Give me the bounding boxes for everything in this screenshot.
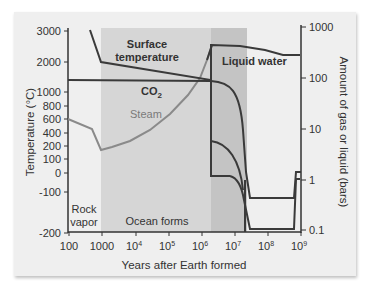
svg-text:1000: 1000 bbox=[309, 21, 333, 33]
right-axis-title: Amount of gas or liquid (bars) bbox=[338, 57, 350, 208]
svg-text:600: 600 bbox=[43, 113, 61, 125]
svg-text:1000: 1000 bbox=[37, 86, 61, 98]
svg-text:107: 107 bbox=[225, 240, 241, 252]
surface-temp-label-2: temperature bbox=[115, 51, 179, 63]
svg-text:100: 100 bbox=[43, 153, 61, 165]
svg-text:3000: 3000 bbox=[37, 25, 61, 37]
svg-text:1: 1 bbox=[309, 174, 315, 186]
surface-temp-label-1: Surface bbox=[127, 38, 167, 50]
chart-svg: 3000 2000 1000 800 600 400 200 100 0 -10… bbox=[0, 0, 367, 292]
rock-vapor-label-2: vapor bbox=[70, 216, 98, 228]
svg-text:1000: 1000 bbox=[90, 240, 114, 252]
left-tick-labels: 3000 2000 1000 800 600 400 200 100 0 -10… bbox=[37, 25, 61, 239]
svg-text:200: 200 bbox=[43, 140, 61, 152]
ocean-forms-label: Ocean forms bbox=[126, 215, 189, 227]
svg-text:104: 104 bbox=[126, 240, 142, 252]
svg-text:800: 800 bbox=[43, 100, 61, 112]
svg-text:-200: -200 bbox=[39, 227, 61, 239]
svg-text:0.1: 0.1 bbox=[309, 224, 324, 236]
liquid-water-label: Liquid water bbox=[222, 55, 288, 67]
steam-label: Steam bbox=[130, 108, 162, 120]
x-axis-title: Years after Earth formed bbox=[122, 259, 247, 271]
svg-text:105: 105 bbox=[159, 240, 175, 252]
svg-text:106: 106 bbox=[192, 240, 208, 252]
right-tick-labels: 1000 100 10 1 0.1 bbox=[309, 21, 333, 236]
svg-text:100: 100 bbox=[309, 72, 327, 84]
left-axis-title: Temperature (°C) bbox=[24, 88, 36, 176]
svg-text:109: 109 bbox=[291, 240, 307, 252]
svg-text:2000: 2000 bbox=[37, 56, 61, 68]
svg-text:10: 10 bbox=[309, 123, 321, 135]
svg-text:0: 0 bbox=[55, 167, 61, 179]
svg-text:-100: -100 bbox=[39, 186, 61, 198]
x-tick-labels: 100 1000 104 105 106 107 108 109 bbox=[60, 240, 307, 252]
svg-text:400: 400 bbox=[43, 127, 61, 139]
svg-text:108: 108 bbox=[258, 240, 274, 252]
rock-vapor-label-1: Rock bbox=[71, 203, 97, 215]
svg-text:100: 100 bbox=[60, 240, 78, 252]
